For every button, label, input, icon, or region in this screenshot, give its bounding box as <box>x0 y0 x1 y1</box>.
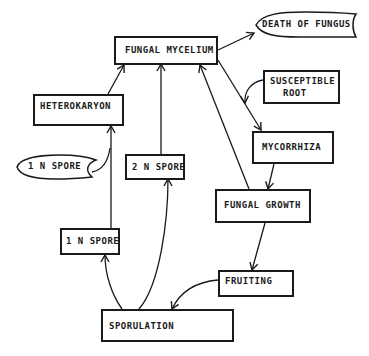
susceptible-root-node: SUSCEPTIBLE ROOT <box>263 70 340 104</box>
heterokaryon-node: HETEROKARYON <box>33 94 124 126</box>
one-n-spore-scroll-label: 1 N SPORE <box>28 161 81 171</box>
fruiting-label: FRUITING <box>225 276 272 287</box>
death-of-fungus-label: DEATH OF FUNGUS <box>262 19 351 29</box>
fungal-mycelium-label: FUNGAL MYCELIUM <box>125 45 214 56</box>
mycorrhiza-label: MYCORRHIZA <box>262 142 321 153</box>
fruiting-node: FRUITING <box>218 270 294 297</box>
heterokaryon-label: HETEROKARYON <box>40 101 111 112</box>
one-n-spore-node: 1 N SPORE <box>60 228 120 255</box>
fungal-growth-node: FUNGAL GROWTH <box>215 189 311 223</box>
two-n-spore-label: 2 N SPORE <box>132 162 185 173</box>
susceptible-root-label-line1: SUSCEPTIBLE <box>270 76 335 87</box>
two-n-spore-node: 2 N SPORE <box>125 154 185 180</box>
mycorrhiza-node: MYCORRHIZA <box>252 131 334 164</box>
sporulation-node: SPORULATION <box>101 309 234 342</box>
sporulation-label: SPORULATION <box>109 321 174 332</box>
fungal-mycelium-node: FUNGAL MYCELIUM <box>114 36 218 65</box>
fungal-life-cycle-diagram: FUNGAL MYCELIUM DEATH OF FUNGUS HETEROKA… <box>0 0 369 356</box>
fungal-growth-label: FUNGAL GROWTH <box>224 200 301 211</box>
susceptible-root-label-line2: ROOT <box>283 88 307 99</box>
one-n-spore-label: 1 N SPORE <box>66 236 119 247</box>
